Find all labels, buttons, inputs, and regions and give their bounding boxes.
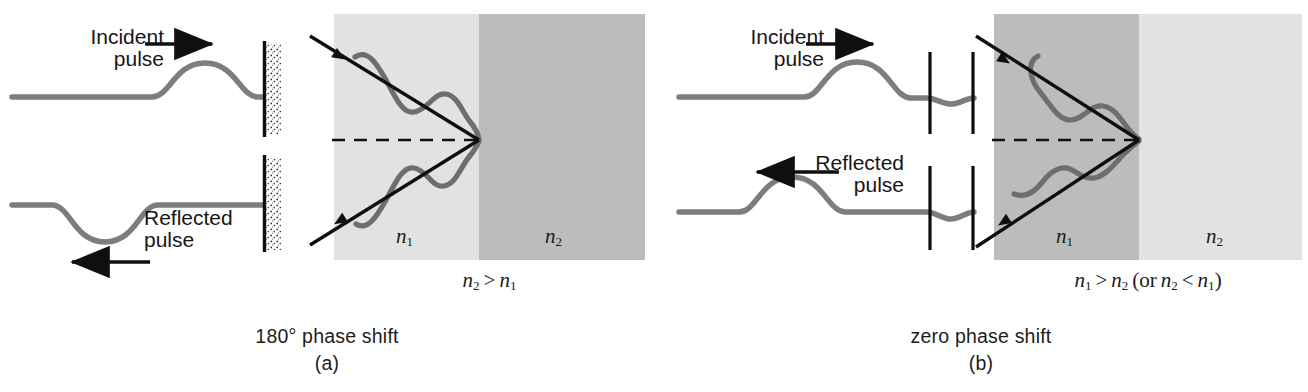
reflected-pulse-label-b: Reflected pulse bbox=[744, 152, 904, 196]
index-condition-a: n2>n1 bbox=[334, 268, 645, 294]
medium-label-n1-a: n1 bbox=[396, 224, 413, 250]
incident-pulse-label-a: Incident pulse bbox=[14, 26, 164, 70]
optics-media-a bbox=[334, 14, 645, 260]
incident-pulse-label-b: Incident pulse bbox=[674, 26, 824, 70]
panel-a-caption: 180° phase shift bbox=[0, 325, 654, 348]
panel-b-caption: zero phase shift bbox=[654, 325, 1308, 348]
medium-label-n1-b: n1 bbox=[1056, 224, 1073, 250]
panel-b: Incident pulse Reflected pulse n1 n2 n1>… bbox=[654, 0, 1308, 392]
panel-b-sublabel: (b) bbox=[654, 352, 1308, 375]
optics-media-b bbox=[994, 14, 1302, 260]
panel-a-sublabel: (a) bbox=[0, 352, 654, 375]
reflected-pulse-label-a: Reflected pulse bbox=[144, 207, 314, 251]
reflection-phase-shift-figure: Incident pulse Reflected pulse n1 n2 n2>… bbox=[0, 0, 1308, 392]
free-end-support-bottom-b bbox=[930, 166, 973, 250]
index-condition-b: n1>n2(orn2<n1) bbox=[994, 268, 1302, 294]
fixed-wall-top-a bbox=[265, 41, 283, 137]
medium-label-n2-a: n2 bbox=[545, 224, 562, 250]
free-end-support-top-b bbox=[930, 52, 973, 134]
panel-a: Incident pulse Reflected pulse n1 n2 n2>… bbox=[0, 0, 654, 392]
medium-label-n2-b: n2 bbox=[1206, 224, 1223, 250]
